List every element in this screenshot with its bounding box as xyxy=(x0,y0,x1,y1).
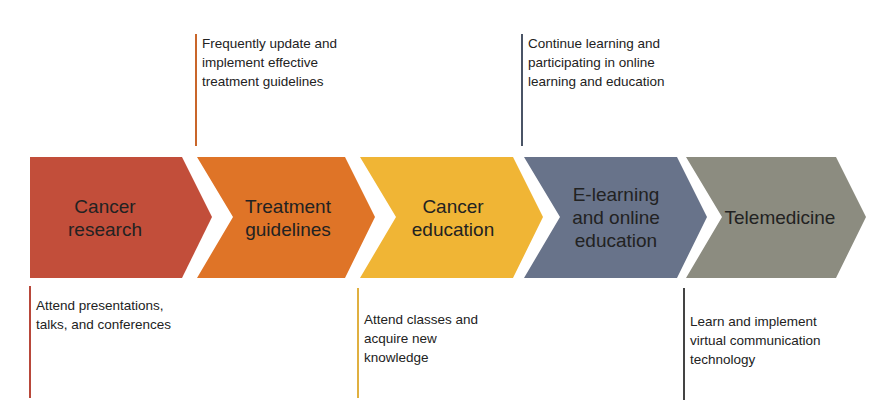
stage-cancer-research: Cancerresearch xyxy=(30,157,212,278)
note-bar xyxy=(29,286,31,398)
stage-label: Cancerresearch xyxy=(30,157,180,278)
note-treatment-guidelines: Frequently update andimplement effective… xyxy=(195,34,392,146)
note-cancer-research: Attend presentations,talks, and conferen… xyxy=(29,286,236,398)
stage-e-learning: E-learningand onlineeducation xyxy=(524,157,707,278)
note-bar xyxy=(683,288,685,400)
note-bar xyxy=(357,288,359,398)
note-bar xyxy=(521,34,523,146)
stage-label: E-learningand onlineeducation xyxy=(552,157,680,278)
stage-telemedicine: Telemedicine xyxy=(686,157,866,278)
stage-cancer-education: Cancereducation xyxy=(360,157,543,278)
note-e-learning: Continue learning andparticipating in on… xyxy=(521,34,728,146)
stage-label: Treatmentguidelines xyxy=(227,157,349,278)
note-telemedicine: Learn and implementvirtual communication… xyxy=(683,288,880,400)
note-cancer-education: Attend classes andacquire newknowledge xyxy=(357,288,534,398)
stage-label: Cancereducation xyxy=(390,157,516,278)
stage-label: Telemedicine xyxy=(716,157,844,278)
note-bar xyxy=(195,34,197,146)
stage-treatment-guidelines: Treatmentguidelines xyxy=(197,157,375,278)
